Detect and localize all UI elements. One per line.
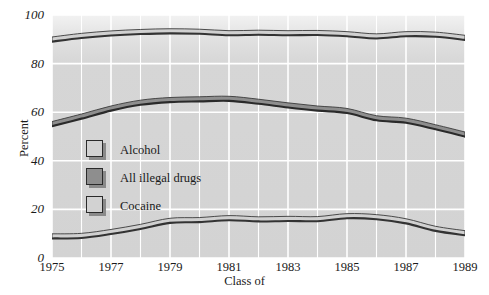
legend-swatch-wrap [86, 140, 112, 160]
legend-swatch [86, 168, 103, 185]
x-tick-label: 1983 [266, 261, 310, 274]
legend-label: Cocaine [120, 200, 161, 213]
y-tick-label: 20 [8, 202, 44, 215]
legend-label: All illegal drugs [120, 172, 201, 185]
y-tick-label: 80 [8, 57, 44, 70]
legend-item: Cocaine [86, 194, 201, 218]
x-tick-label: 1985 [325, 261, 369, 274]
legend-swatch-wrap [86, 196, 112, 216]
x-tick-label: 1975 [30, 261, 74, 274]
legend-swatch-wrap [86, 168, 112, 188]
chart-svg [0, 0, 489, 295]
chart-legend: AlcoholAll illegal drugsCocaine [86, 138, 201, 222]
legend-swatch [86, 196, 103, 213]
x-tick-label: 1989 [443, 261, 487, 274]
x-tick-label: 1979 [148, 261, 192, 274]
y-axis-title: Percent [18, 98, 31, 178]
chart-container: 100806040200 197519771979198119831985198… [0, 0, 489, 295]
legend-label: Alcohol [120, 144, 160, 157]
y-tick-label: 100 [8, 8, 44, 21]
x-tick-label: 1987 [384, 261, 428, 274]
legend-item: Alcohol [86, 138, 201, 162]
legend-item: All illegal drugs [86, 166, 201, 190]
x-axis-title: Class of [0, 275, 489, 288]
x-tick-label: 1977 [89, 261, 133, 274]
legend-swatch [86, 140, 103, 157]
x-tick-label: 1981 [207, 261, 251, 274]
